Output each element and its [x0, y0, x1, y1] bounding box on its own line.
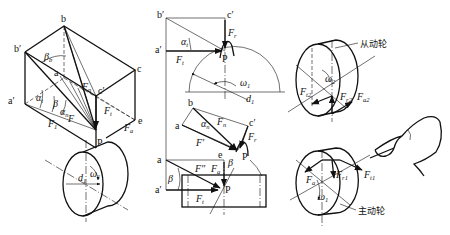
label-omega1: ω1 [90, 168, 100, 180]
mid-point-c-prime: c′ [249, 117, 256, 128]
bot-label-fa: Fa [210, 163, 220, 175]
panel-projections: b′ c′ a′ P Fr Ft αt ω1 d1 b a c′ P Fn F′… [155, 9, 285, 215]
label-driving-gear: 主动轮 [358, 205, 385, 216]
label-ft: Ft [103, 105, 112, 117]
label-fa: Fa [123, 122, 133, 134]
top-point-p: P [222, 53, 228, 64]
label-fr1: Fr1 [335, 169, 348, 181]
bot-point-a-prime: a′ [155, 184, 162, 195]
top-label-alpha-t: αt [181, 36, 188, 48]
label-ft2: Ft2 [299, 86, 312, 98]
label-f: F [67, 113, 75, 124]
label-omega2: ω2 [325, 73, 336, 85]
label-d1: d1 [78, 172, 86, 184]
top-point-a-prime: a′ [155, 44, 162, 55]
top-point-c-prime: c′ [227, 9, 234, 20]
mid-label-fn: Fn [216, 116, 226, 128]
label-beta-b: βb [43, 51, 53, 63]
panel-gear-directions: 从动轮 ω2 Ft2 Fr2 Fa2 Fa Fr1 Ft1 ω1 主动轮 [288, 38, 441, 228]
top-point-b-prime: b′ [157, 9, 164, 20]
point-b: b [61, 13, 66, 24]
helical-gear-force-diagram: b b′ a a′ c c′ e P βb αt β αn Fn Ft Fa F… [0, 0, 450, 235]
mid-label-fr: Fr [247, 131, 257, 143]
mid-point-a: a [175, 120, 180, 131]
top-label-d1: d1 [246, 93, 254, 105]
point-b-prime: b′ [14, 43, 21, 54]
top-label-ft: Ft [175, 54, 184, 66]
label-fa2: Fa2 [356, 91, 370, 103]
point-a: a [54, 67, 59, 78]
panel-3d-box: b b′ a a′ c c′ e P βb αt β αn Fn Ft Fa F… [8, 13, 143, 222]
point-a-prime: a′ [8, 95, 15, 106]
bot-point-p: P [225, 184, 231, 195]
bot-point-e: e [218, 149, 223, 160]
bot-point-a: a [157, 154, 162, 165]
bot-label-f-dprime: F″ [194, 163, 206, 174]
label-omega1-driving: ω1 [318, 191, 328, 203]
label-f1: F1 [47, 118, 57, 130]
bot-label-beta: β [167, 173, 173, 184]
mid-point-p: P [242, 151, 248, 162]
point-e: e [138, 115, 143, 126]
label-beta: β [52, 98, 58, 109]
mid-point-b: b [188, 97, 193, 108]
label-alpha-t: αt [36, 92, 43, 104]
label-driven-gear: 从动轮 [360, 38, 387, 49]
label-fr2: Fr2 [339, 91, 353, 103]
mid-label-alpha-n: αn [201, 118, 210, 130]
bot-label-beta-2: β [227, 157, 233, 168]
top-label-omega1: ω1 [240, 77, 250, 89]
point-c: c [137, 63, 142, 74]
bot-label-ft: Ft [195, 193, 204, 205]
top-label-fr: Fr [227, 27, 237, 39]
point-c-prime: c′ [98, 85, 105, 96]
mid-label-f-prime: F′ [195, 137, 205, 148]
hand-icon [370, 117, 441, 176]
label-fa1: Fa [305, 174, 315, 186]
label-ft1: Ft1 [363, 169, 375, 181]
